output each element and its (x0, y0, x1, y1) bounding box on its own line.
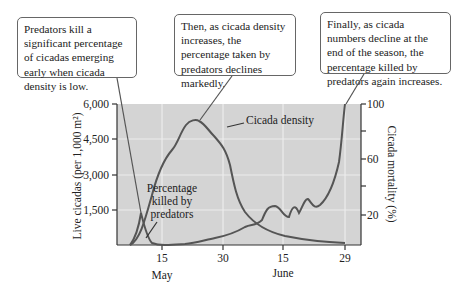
x-tick-june-29: 29 (339, 252, 351, 264)
left-tick-1500: 1,500 (83, 204, 109, 217)
right-axis-title: Cicada mortality (%) (385, 125, 398, 222)
x-tick-may-15: 15 (156, 252, 168, 264)
left-tick-3000: 3,000 (83, 169, 109, 182)
x-tick-may-30: 30 (217, 252, 229, 264)
chart: 6,000 4,500 3,000 1,500 100 60 20 15 30 … (0, 0, 462, 287)
label-cicada-density: Cicada density (246, 114, 314, 127)
x-tick-june-15: 15 (277, 252, 289, 264)
label-percentage-line3: predators (151, 208, 194, 221)
x-month-june: June (272, 267, 293, 279)
right-tick-60: 60 (367, 153, 379, 165)
right-tick-20: 20 (367, 209, 379, 221)
left-tick-6000: 6,000 (83, 98, 109, 111)
label-percentage-line1: Percentage (147, 182, 197, 195)
left-tick-4500: 4,500 (83, 133, 109, 146)
x-month-may: May (151, 269, 172, 282)
left-axis-title: Live cicadas (per 1,000 m²) (71, 112, 84, 239)
label-percentage-line2: killed by (152, 195, 193, 208)
right-tick-100: 100 (367, 98, 385, 110)
